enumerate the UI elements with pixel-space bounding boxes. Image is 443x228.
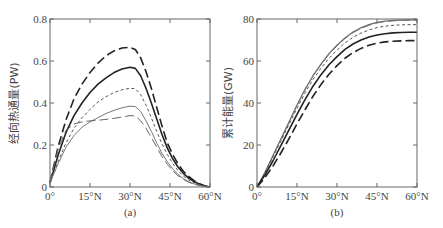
panel-caption: (a): [124, 206, 137, 219]
x-tick-label: 30°N: [118, 190, 141, 202]
y-tick-label: 0.6: [33, 55, 47, 67]
y-tick-label: 80: [243, 13, 255, 25]
series-line: [257, 25, 417, 187]
figure: 0°15°N30°N45°N60°N00.20.40.60.8经向热通量(PW)…: [0, 0, 443, 228]
x-tick-label: 60°N: [405, 190, 428, 202]
y-tick-label: 20: [243, 139, 255, 151]
x-tick-label: 15°N: [285, 190, 308, 202]
y-tick-label: 0.2: [33, 139, 47, 151]
series-line: [257, 20, 417, 187]
y-tick-label: 60: [243, 55, 255, 67]
y-axis-title: 累计能量(GW): [221, 67, 235, 139]
y-tick-label: 40: [243, 97, 255, 109]
series-line: [257, 32, 417, 187]
x-tick-label: 45°N: [158, 190, 181, 202]
x-tick-label: 30°N: [325, 190, 348, 202]
panel-a-meridional-heat-flux: 0°15°N30°N45°N60°N00.20.40.60.8经向热通量(PW)…: [7, 13, 222, 219]
y-tick-label: 0.4: [33, 97, 47, 109]
y-tick-label: 0.8: [33, 13, 47, 25]
plot-frame: [50, 19, 210, 187]
x-tick-label: 15°N: [78, 190, 101, 202]
panel-b-cumulative-energy: 0°15°N30°N45°N60°N020406080累计能量(GW)(b): [221, 13, 429, 219]
series-line: [257, 41, 417, 187]
y-tick-label: 0: [249, 181, 255, 193]
plot-frame: [257, 19, 417, 187]
y-tick-label: 0: [42, 181, 48, 193]
panel-caption: (b): [331, 206, 344, 219]
series-line: [257, 20, 417, 187]
x-tick-label: 60°N: [198, 190, 221, 202]
x-tick-label: 45°N: [365, 190, 388, 202]
y-axis-title: 经向热通量(PW): [7, 62, 21, 143]
series-line: [50, 67, 210, 187]
series-line: [50, 88, 210, 187]
